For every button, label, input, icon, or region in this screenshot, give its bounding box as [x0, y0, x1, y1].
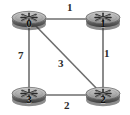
node-label-3: 3 — [10, 94, 48, 105]
node-label-1: 1 — [84, 18, 122, 29]
edge-weight-0-3: 7 — [18, 50, 24, 61]
edge-weight-0-1: 1 — [67, 2, 73, 13]
router-node-2[interactable]: 2 — [84, 83, 122, 107]
network-diagram: 0 1 2 3 1 7 3 1 2 — [0, 0, 130, 115]
edge-weight-1-2: 1 — [104, 48, 110, 59]
edge-weight-3-2: 2 — [64, 100, 70, 111]
edge-weight-0-2: 3 — [58, 58, 64, 69]
router-node-3[interactable]: 3 — [10, 83, 48, 107]
router-node-1[interactable]: 1 — [84, 7, 122, 31]
node-label-0: 0 — [10, 18, 48, 29]
node-label-2: 2 — [84, 94, 122, 105]
edge-0-2 — [33, 23, 100, 92]
router-node-0[interactable]: 0 — [10, 7, 48, 31]
